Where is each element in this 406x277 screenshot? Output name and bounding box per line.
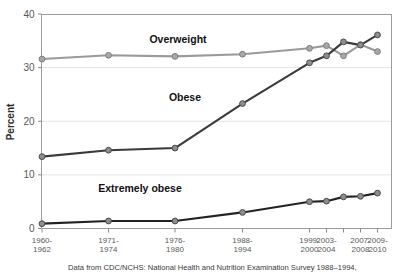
x-tick-label: 2004 bbox=[318, 245, 336, 254]
data-point-marker bbox=[375, 32, 381, 38]
x-tick-label: 1962 bbox=[33, 245, 51, 254]
y-tick-label: 20 bbox=[23, 116, 35, 127]
x-tick-label: 2010 bbox=[369, 245, 387, 254]
obesity-trend-line-chart: 010203040 1960-19621971-19741976-1980198… bbox=[0, 0, 406, 277]
x-tick-label: 1960- bbox=[32, 236, 53, 245]
data-point-marker bbox=[307, 60, 313, 66]
data-point-marker bbox=[324, 43, 330, 49]
data-point-marker bbox=[375, 190, 381, 196]
series-annotation-overweight: Overweight bbox=[149, 33, 207, 45]
data-point-marker bbox=[172, 218, 178, 224]
x-tick-label: 2009- bbox=[367, 236, 388, 245]
data-point-marker bbox=[39, 56, 45, 62]
x-tick-label: 1994 bbox=[234, 245, 252, 254]
data-point-marker bbox=[240, 51, 246, 57]
y-tick-label: 0 bbox=[29, 223, 35, 234]
data-point-marker bbox=[324, 198, 330, 204]
y-axis-title: Percent bbox=[5, 103, 16, 140]
y-tick-label: 10 bbox=[23, 169, 35, 180]
data-point-marker bbox=[341, 53, 347, 59]
data-point-marker bbox=[106, 218, 112, 224]
chart-source-caption: Data from CDC/NCHS: National Health and … bbox=[68, 263, 357, 272]
y-tick-label: 30 bbox=[23, 62, 35, 73]
x-tick-label: 1974 bbox=[100, 245, 118, 254]
x-tick-label: 1980 bbox=[166, 245, 184, 254]
x-tick-label: 1971- bbox=[98, 236, 119, 245]
data-point-marker bbox=[240, 210, 246, 216]
x-tick-label: 1976- bbox=[165, 236, 186, 245]
data-point-marker bbox=[341, 39, 347, 45]
data-point-marker bbox=[324, 53, 330, 59]
data-point-marker bbox=[358, 42, 364, 48]
x-tick-label: 2008 bbox=[352, 245, 370, 254]
data-point-marker bbox=[341, 194, 347, 200]
data-point-marker bbox=[307, 199, 313, 205]
data-point-marker bbox=[307, 45, 313, 51]
data-point-marker bbox=[172, 53, 178, 59]
data-point-marker bbox=[240, 101, 246, 107]
chart-container: 010203040 1960-19621971-19741976-1980198… bbox=[0, 0, 406, 277]
x-tick-label: 2003- bbox=[316, 236, 337, 245]
series-annotation-obese: Obese bbox=[169, 91, 201, 103]
data-point-marker bbox=[106, 52, 112, 58]
data-point-marker bbox=[39, 154, 45, 160]
data-point-marker bbox=[39, 221, 45, 227]
data-point-marker bbox=[375, 49, 381, 55]
x-tick-label: 1988- bbox=[232, 236, 253, 245]
y-tick-label: 40 bbox=[23, 9, 35, 20]
data-point-marker bbox=[358, 193, 364, 199]
series-annotation-extremely-obese: Extremely obese bbox=[98, 182, 182, 194]
x-tick-label: 2000 bbox=[301, 245, 319, 254]
data-point-marker bbox=[172, 145, 178, 151]
data-point-marker bbox=[106, 147, 112, 153]
